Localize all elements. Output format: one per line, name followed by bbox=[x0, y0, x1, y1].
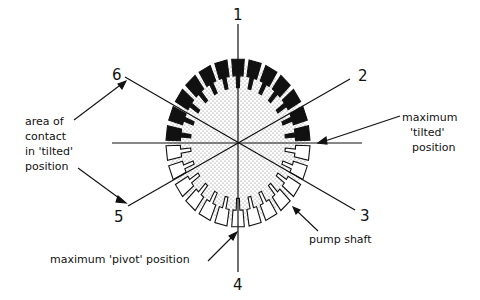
annotation-line: contact bbox=[25, 130, 67, 143]
arrowhead-icon bbox=[318, 137, 327, 144]
annotation-line: area of bbox=[25, 115, 65, 128]
area-of-contact-label: area of contact in 'tilted' position bbox=[25, 115, 73, 173]
arrow-area-to-5 bbox=[78, 168, 123, 201]
annotation-line: position bbox=[25, 160, 69, 173]
annotation-line: 'tilted' bbox=[410, 126, 445, 139]
arrow-area-to-6 bbox=[74, 83, 123, 120]
label-3: 3 bbox=[360, 207, 370, 225]
arrow-max-pivot bbox=[208, 235, 234, 261]
label-2: 2 bbox=[358, 67, 368, 85]
arrow-pump-shaft bbox=[296, 210, 318, 231]
annotation-line: in 'tilted' bbox=[25, 145, 73, 158]
label-1: 1 bbox=[233, 6, 243, 24]
max-pivot-label: maximum 'pivot' position bbox=[50, 253, 190, 266]
annotation-line: maximum bbox=[402, 111, 457, 124]
swashplate-diagram: 1 2 3 4 5 6 area of contact in 'tilted' … bbox=[0, 0, 480, 300]
max-tilted-label: maximum 'tilted' position bbox=[402, 111, 457, 154]
arrowhead-icon bbox=[116, 196, 126, 203]
arrow-max-tilted bbox=[322, 116, 400, 142]
label-6: 6 bbox=[112, 66, 122, 84]
label-5: 5 bbox=[114, 208, 124, 226]
pump-shaft-label: pump shaft bbox=[309, 233, 372, 246]
annotation-line: position bbox=[412, 141, 456, 154]
label-4: 4 bbox=[233, 276, 243, 294]
